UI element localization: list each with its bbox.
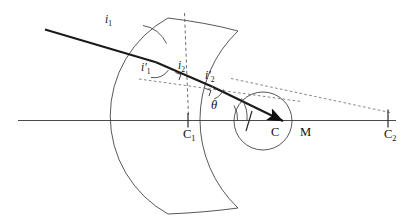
label-theta-glyph: θ xyxy=(211,98,217,112)
label-incidence-angle-1: i1 xyxy=(105,14,112,26)
optics-diagram-canvas xyxy=(0,0,410,221)
label-point-m: M xyxy=(300,126,311,139)
label-refraction-angle-1: i′1 xyxy=(141,62,151,74)
label-deviation-angle: θ xyxy=(211,99,217,112)
label-refraction-angle-2: i′2 xyxy=(205,70,215,82)
right-angle-mark-2 xyxy=(206,89,212,97)
ray-segment-exit xyxy=(213,87,284,121)
label-incidence-angle-2: i2 xyxy=(178,60,185,72)
lens-edge-top xyxy=(168,18,238,31)
lens-surface-1-arc xyxy=(110,18,168,214)
lens-surface-2-arc xyxy=(200,31,238,208)
label-c2-sub: 2 xyxy=(392,134,396,143)
label-i1p-sub: 1 xyxy=(147,67,151,76)
ray-segment-incident xyxy=(45,30,156,63)
angle-arc-i1-prime xyxy=(151,70,169,78)
lens-edge-bottom xyxy=(168,208,238,214)
optics-ray-diagram-figure: i1 i′1 i2 i′2 θ C1 C M C2 xyxy=(0,0,410,221)
label-center-1: C1 xyxy=(183,128,195,141)
normal-line-surface-1 xyxy=(185,13,189,116)
label-m-base: M xyxy=(300,125,311,139)
label-i1-sub: 1 xyxy=(108,19,112,28)
label-i2p-sub: 2 xyxy=(211,75,215,84)
label-center-2: C2 xyxy=(384,128,396,141)
meniscus-lens-body xyxy=(110,18,238,214)
angle-arc-group xyxy=(143,26,247,121)
label-i2-sub: 2 xyxy=(181,65,185,74)
label-c-base: C xyxy=(271,125,279,139)
angle-arc-i1 xyxy=(143,26,167,44)
label-c1-sub: 1 xyxy=(191,134,195,143)
label-center-sphere: C xyxy=(271,126,279,139)
light-ray-path xyxy=(45,30,283,122)
